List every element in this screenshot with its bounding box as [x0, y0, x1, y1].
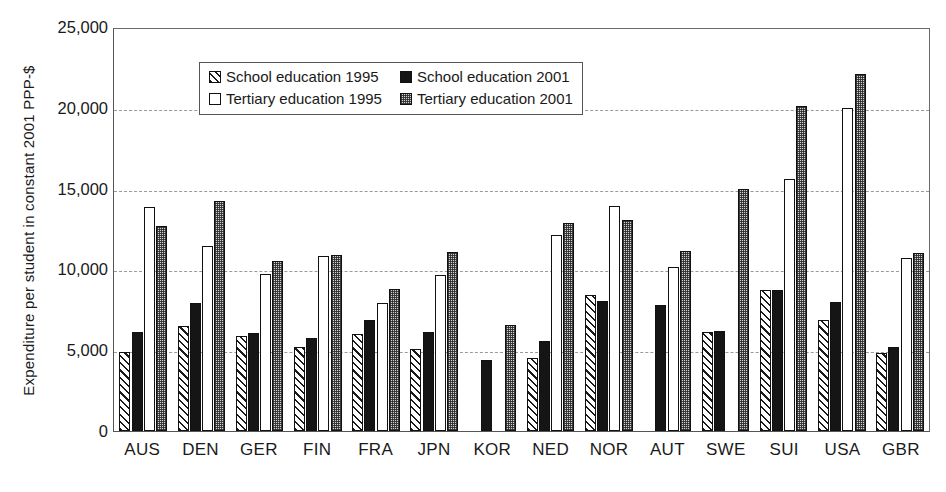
- bar-usa-series-0: [818, 320, 829, 432]
- y-tick-label: 15,000: [4, 181, 108, 198]
- bar-group-sui: [754, 29, 812, 431]
- bar-gbr-series-3: [913, 253, 924, 431]
- bar-fin-series-0: [294, 347, 305, 431]
- bar-ned-series-0: [527, 358, 538, 431]
- x-tick-label-fra: FRA: [346, 440, 404, 474]
- y-axis-tick-labels: 05,00010,00015,00020,00025,000: [0, 0, 108, 492]
- legend-swatch-icon: [400, 93, 412, 105]
- bar-ger-series-0: [236, 336, 247, 431]
- bar-fra-series-0: [352, 334, 363, 431]
- bar-fin-series-1: [306, 338, 317, 431]
- bar-fin-series-3: [331, 255, 342, 431]
- bar-usa-series-2: [842, 108, 853, 431]
- legend-item-1: School education 2001: [400, 68, 573, 85]
- bar-gbr-series-0: [876, 353, 887, 431]
- bar-group-nor: [580, 29, 638, 431]
- y-tick-label: 0: [4, 423, 108, 440]
- bar-aut-series-3: [680, 251, 691, 431]
- x-tick-label-usa: USA: [813, 440, 871, 474]
- x-tick-label-aus: AUS: [113, 440, 171, 474]
- x-tick-label-den: DEN: [171, 440, 229, 474]
- bar-swe-series-1: [714, 331, 725, 431]
- bar-gbr-series-2: [901, 258, 912, 431]
- bar-group-gbr: [871, 29, 929, 431]
- bar-aus-series-3: [156, 226, 167, 431]
- x-tick-label-gbr: GBR: [872, 440, 930, 474]
- bar-den-series-3: [214, 201, 225, 431]
- y-tick-label: 10,000: [4, 261, 108, 278]
- legend-swatch-icon: [209, 93, 221, 105]
- bar-fra-series-1: [364, 320, 375, 431]
- bar-nor-series-2: [609, 206, 620, 431]
- y-tick-label: 5,000: [4, 342, 108, 359]
- x-tick-label-ger: GER: [230, 440, 288, 474]
- bar-jpn-series-2: [435, 275, 446, 431]
- bar-usa-series-3: [855, 74, 866, 431]
- x-tick-label-nor: NOR: [580, 440, 638, 474]
- bar-jpn-series-0: [410, 349, 421, 431]
- bar-aut-series-1: [655, 305, 666, 431]
- legend-swatch-icon: [209, 71, 221, 83]
- bar-nor-series-1: [597, 301, 608, 431]
- x-tick-label-aut: AUT: [638, 440, 696, 474]
- bar-fin-series-2: [318, 256, 329, 431]
- bar-jpn-series-3: [447, 252, 458, 431]
- bar-nor-series-3: [622, 220, 633, 431]
- y-tick-label: 20,000: [4, 100, 108, 117]
- bar-kor-series-1: [481, 360, 492, 431]
- bar-fra-series-2: [377, 303, 388, 431]
- bar-kor-series-3: [505, 325, 516, 431]
- legend-label: School education 1995: [226, 68, 379, 85]
- legend-item-2: Tertiary education 1995: [209, 90, 382, 107]
- bar-aut-series-2: [668, 267, 679, 431]
- bar-den-series-2: [202, 246, 213, 431]
- bar-gbr-series-1: [888, 347, 899, 431]
- bar-aus-series-2: [144, 207, 155, 431]
- bar-aus-series-1: [132, 332, 143, 431]
- x-tick-label-swe: SWE: [697, 440, 755, 474]
- bar-sui-series-1: [772, 290, 783, 431]
- bar-jpn-series-1: [423, 332, 434, 431]
- bar-ned-series-2: [551, 235, 562, 431]
- legend-label: Tertiary education 2001: [417, 90, 573, 107]
- legend-item-0: School education 1995: [209, 68, 382, 85]
- bar-group-swe: [696, 29, 754, 431]
- legend-item-3: Tertiary education 2001: [400, 90, 573, 107]
- bar-group-usa: [813, 29, 871, 431]
- bar-chart: Expenditure per student in constant 2001…: [0, 0, 946, 492]
- bar-ger-series-2: [260, 274, 271, 431]
- bar-fra-series-3: [389, 289, 400, 431]
- bar-ger-series-3: [272, 261, 283, 431]
- bar-swe-series-3: [738, 189, 749, 431]
- legend-swatch-icon: [400, 71, 412, 83]
- chart-legend: School education 1995School education 20…: [199, 62, 583, 115]
- bar-aus-series-0: [119, 352, 130, 431]
- bar-sui-series-0: [760, 290, 771, 431]
- x-axis-tick-labels: AUSDENGERFINFRAJPNKORNEDNORAUTSWESUIUSAG…: [113, 440, 930, 474]
- bar-group-aus: [114, 29, 172, 431]
- bar-group-aut: [638, 29, 696, 431]
- x-tick-label-jpn: JPN: [405, 440, 463, 474]
- bar-ger-series-1: [248, 333, 259, 431]
- bar-sui-series-2: [784, 179, 795, 431]
- bar-sui-series-3: [796, 106, 807, 431]
- bar-den-series-0: [178, 326, 189, 431]
- x-tick-label-kor: KOR: [463, 440, 521, 474]
- y-tick-label: 25,000: [4, 19, 108, 36]
- x-tick-label-fin: FIN: [288, 440, 346, 474]
- legend-label: School education 2001: [417, 68, 570, 85]
- bar-usa-series-1: [830, 302, 841, 431]
- bar-den-series-1: [190, 303, 201, 431]
- x-tick-label-ned: NED: [522, 440, 580, 474]
- bar-ned-series-1: [539, 341, 550, 431]
- bar-nor-series-0: [585, 295, 596, 431]
- bar-swe-series-0: [702, 332, 713, 431]
- bar-ned-series-3: [563, 223, 574, 431]
- x-tick-label-sui: SUI: [755, 440, 813, 474]
- legend-label: Tertiary education 1995: [226, 90, 382, 107]
